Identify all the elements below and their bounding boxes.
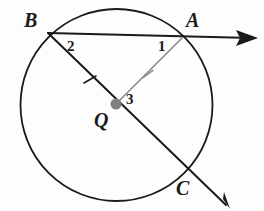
arrowhead-lower-right	[218, 192, 230, 209]
point-label-a: A	[186, 10, 199, 30]
angle-label-3: 3	[126, 92, 134, 107]
angle-label-1: 1	[158, 39, 166, 54]
angle-label-2: 2	[67, 39, 75, 54]
point-label-b: B	[24, 10, 37, 30]
ray-b-a	[48, 33, 252, 38]
ray-b-through-q-to-c	[48, 33, 226, 205]
center-point-q-dot	[111, 99, 122, 110]
point-label-c: C	[176, 178, 189, 198]
geometry-figure: B A Q C 1 2 3	[0, 0, 264, 211]
point-label-q: Q	[94, 110, 108, 130]
congruence-tick-radius-qa	[143, 69, 153, 79]
congruence-tick-radius-qb	[84, 76, 96, 83]
